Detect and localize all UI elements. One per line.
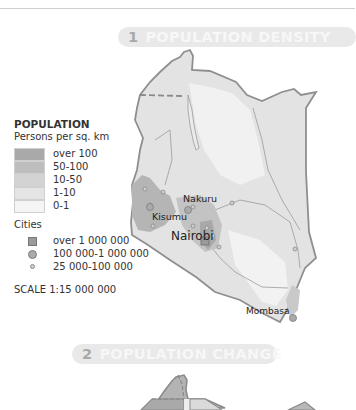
legend-label: 1-10 — [53, 187, 76, 198]
legend-label: over 100 — [53, 148, 98, 159]
city-square-icon — [28, 237, 37, 246]
section-title: POPULATION CHANGE — [99, 346, 282, 362]
city-label-nakuru: Nakuru — [183, 193, 217, 204]
legend-swatch-10-50 — [14, 174, 45, 187]
city-legend-label: over 1 000 000 — [53, 235, 129, 246]
city-label-mombasa: Mombasa — [246, 306, 289, 316]
kisumu-marker — [147, 204, 154, 211]
city-legend-label: 25 000-100 000 — [53, 261, 133, 272]
section-header-change: 2 POPULATION CHANGE — [72, 344, 277, 364]
change-map-region-east — [288, 402, 315, 410]
city-label-kisumu: Kisumu — [152, 211, 187, 222]
city-circle-large-icon — [28, 250, 37, 259]
legend-label: 10-50 — [53, 174, 82, 185]
city-legend-label: 100 000-1 000 000 — [53, 248, 149, 259]
legend-swatch-0-1 — [14, 200, 45, 213]
mombasa-marker — [290, 315, 297, 322]
section-number: 2 — [82, 346, 92, 362]
cities-legend-title: Cities — [14, 219, 42, 230]
map-scale: SCALE 1:15 000 000 — [14, 284, 116, 295]
change-map-lake — [184, 399, 190, 410]
legend-title: POPULATION — [14, 118, 90, 130]
legend-swatch-over-100 — [14, 148, 45, 161]
legend-label: 0-1 — [53, 200, 69, 211]
change-map-region-northwest — [141, 399, 184, 410]
legend-swatch-1-10 — [14, 187, 45, 200]
city-circle-small-icon — [30, 264, 35, 269]
legend-heading: POPULATION — [14, 118, 90, 130]
legend-swatch-50-100 — [14, 161, 45, 174]
legend-subtitle: Persons per sq. km — [14, 131, 109, 142]
city-label-nairobi: Nairobi — [171, 229, 214, 243]
legend-label: 50-100 — [53, 161, 88, 172]
